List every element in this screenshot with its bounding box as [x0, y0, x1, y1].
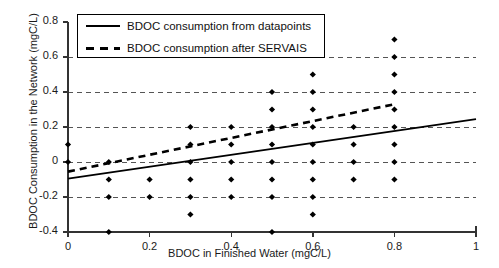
legend-label-servais: BDOC consumption after SERVAIS	[127, 42, 307, 54]
bdoc-consumption-chart: BDOC consumption from datapoints BDOC co…	[0, 0, 499, 268]
y-tick-label: -0.4	[24, 224, 58, 236]
chart-legend: BDOC consumption from datapoints BDOC co…	[77, 14, 325, 58]
x-tick-label: 0	[53, 240, 83, 252]
x-tick-label: 0.6	[298, 240, 328, 252]
legend-item-servais: BDOC consumption after SERVAIS	[78, 37, 324, 59]
legend-label-datapoints: BDOC consumption from datapoints	[127, 20, 311, 32]
x-tick-label: 0.8	[379, 240, 409, 252]
dashed-line-swatch-icon	[86, 42, 120, 54]
y-tick-label: 0.2	[24, 119, 58, 131]
y-tick-label: 0	[24, 154, 58, 166]
y-tick-label: 0.4	[24, 84, 58, 96]
y-tick-label: -0.2	[24, 189, 58, 201]
x-tick-label: 1	[461, 240, 491, 252]
solid-line-swatch-icon	[86, 20, 120, 32]
y-tick-label: 0.8	[24, 14, 58, 26]
x-tick-label: 0.2	[135, 240, 165, 252]
x-tick-label: 0.4	[216, 240, 246, 252]
legend-item-datapoints: BDOC consumption from datapoints	[78, 15, 324, 37]
y-tick-label: 0.6	[24, 49, 58, 61]
